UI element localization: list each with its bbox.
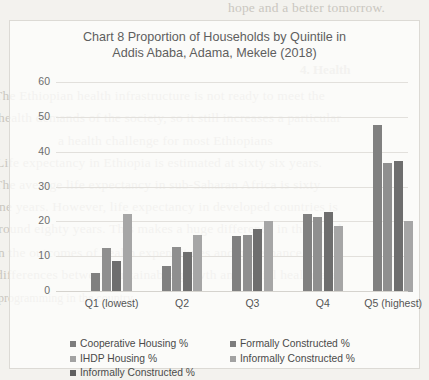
bar-group: Q2 xyxy=(162,83,203,292)
legend-column-left: Cooperative Housing %IHDP Housing %Infor… xyxy=(70,337,195,380)
bar-group: Q4 xyxy=(303,83,344,292)
bar-chart: Chart 8 Proportion of Households by Quin… xyxy=(9,20,420,369)
bar xyxy=(253,229,262,292)
bar xyxy=(313,217,322,292)
bar xyxy=(183,252,192,292)
chart-title-line-2: Addis Ababa, Adama, Mekele (2018) xyxy=(10,46,419,62)
legend-column-right: Formally Constructed %Informally Constru… xyxy=(230,337,355,366)
bar-group: Q3 xyxy=(232,83,273,292)
legend-label: Formally Constructed % xyxy=(240,337,350,352)
bar xyxy=(394,161,403,292)
legend-label: Cooperative Housing % xyxy=(80,337,188,352)
legend-swatch-icon xyxy=(70,356,76,362)
legend-item[interactable]: Informally Constructed % xyxy=(70,366,195,380)
bar xyxy=(102,248,111,292)
axis-baseline xyxy=(56,291,408,292)
legend-item[interactable]: Informally Constructed % xyxy=(230,352,355,367)
y-axis-tick-label: 50 xyxy=(38,110,50,122)
legend-swatch-icon xyxy=(70,370,76,376)
bar xyxy=(162,266,171,292)
chart-title: Chart 8 Proportion of Households by Quin… xyxy=(10,30,419,61)
x-axis-tick-label: Q1 (lowest) xyxy=(85,297,139,309)
bar xyxy=(112,261,121,292)
bar xyxy=(123,214,132,292)
bar xyxy=(91,273,100,292)
bar xyxy=(232,236,241,292)
plot-area: 0102030405060 Q1 (lowest)Q2Q3Q4Q5 (highe… xyxy=(56,83,408,292)
legend-swatch-icon xyxy=(70,341,76,347)
y-axis-tick-label: 20 xyxy=(38,214,50,226)
legend-label: Informally Constructed % xyxy=(240,352,355,367)
bar xyxy=(172,247,181,292)
y-axis-tick-label: 10 xyxy=(38,249,50,261)
bar xyxy=(383,163,392,292)
y-axis-tick-label: 40 xyxy=(38,145,50,157)
x-axis-tick-label: Q2 xyxy=(175,297,189,309)
bleed-line: hope and a better tomorrow. xyxy=(228,0,385,16)
legend-item[interactable]: IHDP Housing % xyxy=(70,352,195,367)
y-axis-tick-label: 30 xyxy=(38,180,50,192)
bar-group: Q5 (highest) xyxy=(373,83,414,292)
legend-item[interactable]: Cooperative Housing % xyxy=(70,337,195,352)
x-axis-tick-label: Q3 xyxy=(245,297,259,309)
legend-item[interactable]: Formally Constructed % xyxy=(230,337,355,352)
bar xyxy=(243,235,252,292)
y-axis-tick-label: 0 xyxy=(44,284,50,296)
x-axis-tick-label: Q4 xyxy=(316,297,330,309)
bar xyxy=(334,226,343,292)
chart-title-line-1: Chart 8 Proportion of Households by Quin… xyxy=(10,30,419,46)
x-axis-tick-label: Q5 (highest) xyxy=(364,297,422,309)
bar xyxy=(373,125,382,292)
bar xyxy=(324,212,333,292)
y-axis-tick-label: 60 xyxy=(38,75,50,87)
legend-swatch-icon xyxy=(230,356,236,362)
bar-group: Q1 (lowest) xyxy=(91,83,132,292)
bar xyxy=(404,221,413,292)
legend-label: IHDP Housing % xyxy=(80,352,157,367)
legend-swatch-icon xyxy=(230,341,236,347)
bar xyxy=(303,214,312,292)
bar xyxy=(264,221,273,292)
legend-label: Informally Constructed % xyxy=(80,366,195,380)
bar xyxy=(193,235,202,292)
